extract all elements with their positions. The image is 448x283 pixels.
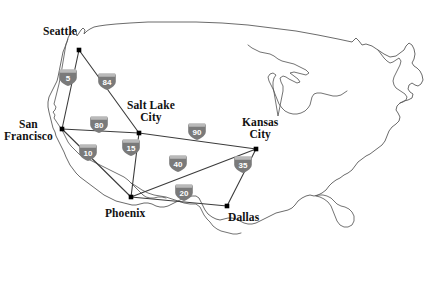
city-label-dallas: Dallas xyxy=(228,211,259,223)
great-lakes-outline xyxy=(248,45,347,116)
map-canvas xyxy=(0,0,448,283)
city-label-line: Dallas xyxy=(228,211,259,223)
edge-i5 xyxy=(62,50,79,129)
city-label-salt-lake-city: Salt LakeCity xyxy=(127,99,175,123)
interstate-shield-i15[interactable]: 15 xyxy=(120,137,142,157)
shield-glyph-icon xyxy=(167,153,189,173)
city-node-phoenix[interactable] xyxy=(129,195,134,200)
interstate-shield-i20[interactable]: 20 xyxy=(173,182,195,202)
city-label-seattle: Seattle xyxy=(43,25,77,37)
shield-glyph-icon xyxy=(186,121,208,141)
shield-glyph-icon xyxy=(120,137,142,157)
shield-glyph-icon xyxy=(57,67,79,87)
city-node-san-francisco[interactable] xyxy=(60,127,65,132)
shield-glyph-icon xyxy=(173,182,195,202)
northeast-detail xyxy=(378,50,407,103)
shield-glyph-icon xyxy=(232,154,254,174)
city-label-line: City xyxy=(127,111,175,123)
interstate-shield-i10[interactable]: 10 xyxy=(77,142,99,162)
interstate-shield-i35[interactable]: 35 xyxy=(232,154,254,174)
city-label-line: Seattle xyxy=(43,25,77,37)
interstate-shield-i40[interactable]: 40 xyxy=(167,153,189,173)
interstate-network-map: SeattleSanFranciscoSalt LakeCityKansasCi… xyxy=(0,0,448,283)
city-node-dallas[interactable] xyxy=(225,204,230,209)
city-label-line: Salt Lake xyxy=(127,99,175,111)
city-label-line: Francisco xyxy=(4,130,53,142)
city-label-line: City xyxy=(242,128,278,140)
interstate-shield-i5[interactable]: 5 xyxy=(57,67,79,87)
city-node-salt-lake-city[interactable] xyxy=(137,131,142,136)
city-label-phoenix: Phoenix xyxy=(105,207,145,219)
city-label-line: Phoenix xyxy=(105,207,145,219)
shield-glyph-icon xyxy=(77,142,99,162)
interstate-shield-i80[interactable]: 80 xyxy=(88,114,110,134)
interstate-shield-i84[interactable]: 84 xyxy=(96,71,118,91)
city-label-line: San xyxy=(4,118,53,130)
gulf-coast-detail xyxy=(316,195,354,227)
city-node-seattle[interactable] xyxy=(77,48,82,53)
city-label-line: Kansas xyxy=(242,116,278,128)
city-label-kansas-city: KansasCity xyxy=(242,116,278,140)
city-label-san-francisco: SanFrancisco xyxy=(4,118,53,142)
interstate-shield-i90[interactable]: 90 xyxy=(186,121,208,141)
shield-glyph-icon xyxy=(88,114,110,134)
city-node-kansas-city[interactable] xyxy=(254,147,259,152)
shield-glyph-icon xyxy=(96,71,118,91)
